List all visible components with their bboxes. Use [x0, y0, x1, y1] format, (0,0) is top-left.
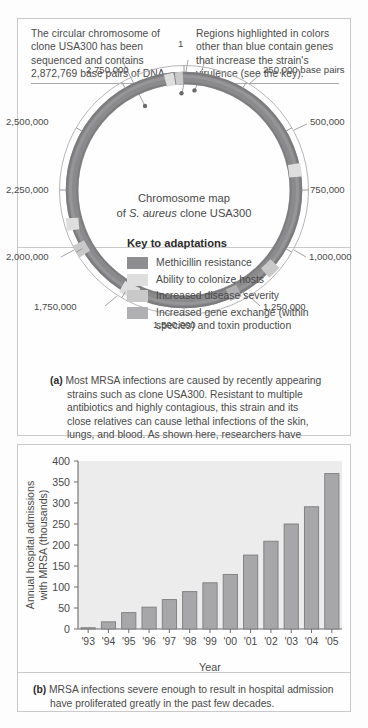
segment-colonize-1	[166, 79, 175, 81]
bar-03	[284, 524, 298, 629]
key-swatch-disease-severity	[127, 290, 148, 302]
x-tick-label-02: '02	[264, 636, 278, 647]
y-tick-label-300: 300	[52, 497, 70, 509]
map-title-prefix: of	[117, 207, 129, 219]
x-tick-label-00: '00	[224, 636, 238, 647]
figure-page: (a) Most MRSA infections are caused by r…	[0, 0, 368, 728]
key-item-colonize-hosts: Ability to colonize hosts	[127, 273, 317, 286]
bar-02	[264, 541, 278, 629]
key-label-disease-severity: Increased disease severity	[156, 289, 279, 302]
caption-a-tag: (a)	[50, 375, 63, 386]
bar-97	[162, 600, 176, 629]
segment-colonize-2	[294, 164, 296, 177]
x-tick-label-03: '03	[284, 636, 298, 647]
x-tick-label-04: '04	[305, 636, 319, 647]
bar-98	[183, 592, 197, 629]
chromosome-map: 1 250,000 base pairs 500,000 750,000 1,0…	[17, 60, 351, 350]
y-tick-label-250: 250	[52, 518, 70, 530]
caption-b-tag: (b)	[33, 684, 46, 695]
map-title-suffix: clone USA300	[177, 207, 252, 219]
y-tick-label-50: 50	[58, 602, 70, 614]
tick-label-1750000: 1,750,000	[34, 301, 77, 312]
y-tick-label-200: 200	[52, 539, 70, 551]
key-item-gene-exchange: Increased gene exchange (within species)…	[127, 306, 317, 332]
key-swatch-gene-exchange	[127, 307, 148, 319]
x-tick-label-01: '01	[244, 636, 258, 647]
x-tick-label-98: '98	[183, 636, 197, 647]
bar-93	[81, 628, 95, 629]
y-tick-label-400: 400	[52, 455, 70, 467]
map-title: Chromosome map of S. aureus clone USA300	[17, 191, 351, 220]
y-axis-label-line1: Annual hospital admissions	[24, 481, 36, 609]
bar-05	[325, 474, 339, 629]
segment-severity-1	[176, 78, 183, 79]
tick-label-500000: 500,000	[310, 116, 345, 127]
x-tick-label-97: '97	[163, 636, 177, 647]
bar-chart-svg: 050100150200250300350400'93'94'95'96'97'…	[18, 455, 350, 677]
key-label-methicillin-resistance: Methicillin resistance	[156, 256, 252, 269]
mrsa-admissions-bar-chart: 050100150200250300350400'93'94'95'96'97'…	[18, 455, 350, 677]
key-label-gene-exchange: Increased gene exchange (within species)…	[156, 306, 317, 332]
x-tick-label-96: '96	[142, 636, 156, 647]
caption-b: (b) MRSA infections severe enough to res…	[33, 683, 341, 710]
bar-00	[223, 574, 237, 629]
bar-94	[101, 622, 115, 629]
bar-96	[142, 607, 156, 629]
y-tick-label-150: 150	[52, 560, 70, 572]
tick-label-2500000: 2,500,000	[6, 116, 49, 127]
x-tick-label-99: '99	[203, 636, 217, 647]
x-tick-label-95: '95	[122, 636, 136, 647]
caption-b-text: MRSA infections severe enough to result …	[49, 684, 333, 709]
species-name: S. aureus	[129, 207, 177, 219]
tick-label-1: 1	[178, 38, 183, 49]
key-item-disease-severity: Increased disease severity	[127, 289, 317, 302]
y-tick-label-350: 350	[52, 476, 70, 488]
y-tick-label-0: 0	[64, 623, 70, 635]
key-title: Key to adaptations	[127, 237, 317, 249]
key-swatch-colonize-hosts	[127, 274, 148, 286]
map-title-line1: Chromosome map	[17, 191, 351, 206]
key-label-colonize-hosts: Ability to colonize hosts	[156, 273, 264, 286]
tick-label-2000000: 2,000,000	[6, 251, 49, 262]
bar-95	[122, 613, 136, 629]
x-axis-label: Year	[199, 661, 221, 673]
map-title-line2: of S. aureus clone USA300	[17, 206, 351, 221]
tick-label-2750000: 2,750,000	[86, 64, 129, 75]
x-tick-label-93: '93	[81, 636, 95, 647]
ring-pointer-dots	[143, 88, 197, 108]
adaptations-key: Key to adaptations Methicillin resistanc…	[127, 237, 317, 336]
tick-label-250000: 250,000 base pairs	[263, 64, 345, 75]
bar-04	[304, 507, 318, 629]
bar-99	[203, 583, 217, 629]
y-axis-label-line2: with MRSA (thousands)	[37, 490, 49, 602]
y-tick-label-100: 100	[52, 581, 70, 593]
bar-01	[244, 555, 258, 629]
key-item-methicillin-resistance: Methicillin resistance	[127, 256, 317, 269]
key-swatch-methicillin-resistance	[127, 257, 148, 269]
x-tick-label-94: '94	[102, 636, 116, 647]
x-tick-label-05: '05	[325, 636, 339, 647]
